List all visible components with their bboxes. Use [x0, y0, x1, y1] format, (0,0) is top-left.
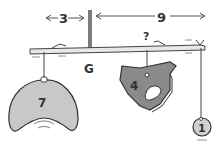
mobile-diagram: 3 9 G ? 7 4 1: [0, 0, 222, 150]
pivot-string: [89, 10, 91, 52]
dimension-right: [96, 13, 205, 19]
hook-left: [41, 77, 47, 82]
shadow-lines: [34, 121, 54, 128]
stick: [30, 40, 205, 54]
weight-7-label: 7: [38, 96, 46, 110]
dimension-right-label: 9: [157, 10, 166, 25]
hook-right: [200, 118, 203, 121]
unknown-position-label: ?: [143, 30, 149, 43]
hook-middle: [145, 73, 149, 77]
weight-4: [120, 62, 176, 110]
weight-1-label: 1: [198, 122, 206, 135]
weight-4-label: 4: [130, 79, 138, 93]
dimension-left-label: 3: [59, 11, 68, 26]
pivot-label: G: [84, 62, 94, 76]
